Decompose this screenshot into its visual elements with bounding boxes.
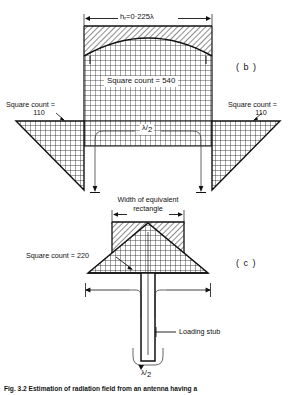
left-count-line2: 110 (6, 109, 72, 117)
height-value: 0·225λ (131, 12, 154, 21)
stub-dim-numerator: λ (141, 368, 145, 377)
slot-dim-denominator: 2 (148, 125, 152, 134)
panel-b-right-triangle (212, 121, 280, 190)
slot-dim-numerator: λ (142, 123, 146, 132)
panel-c-square-count: Square count = 220 (26, 252, 89, 260)
width-note-line2: rectangle (99, 205, 197, 213)
panel-label-b: ( b ) (236, 62, 257, 72)
panel-b-left-square-count: Square count = 110 (6, 101, 72, 117)
panel-c-stub-leader (155, 327, 176, 337)
panel-b-left-triangle (16, 121, 84, 190)
panel-c-width-note: Width of equivalent rectangle (99, 196, 197, 213)
panel-b-height-dimension-label: hr=0·225λ (120, 13, 154, 22)
panel-b-center-square-count: Square count = 540 (104, 76, 178, 87)
panel-b-right-square-count: Square count = 110 (228, 101, 294, 117)
width-note-line1: Width of equivalent (99, 196, 197, 204)
figure-caption: Fig. 3.2 Estimation of radiation field f… (4, 385, 296, 395)
panel-b-slot-dimension-label: λ/2 (140, 124, 154, 135)
panel-c-stub-dimension-label: λ/2 (141, 369, 151, 380)
right-count-line2: 110 (228, 109, 294, 117)
panel-c-stub-label: Loading stub (179, 328, 220, 336)
panel-label-c: ( c ) (236, 258, 257, 268)
stub-dim-denominator: 2 (147, 370, 151, 379)
